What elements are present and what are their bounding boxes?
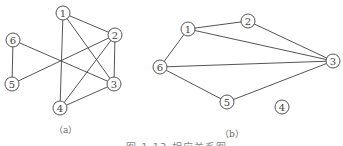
node-3: 3 (326, 54, 340, 68)
node-6: 6 (153, 60, 167, 74)
edge-2-4 (60, 35, 115, 108)
edge-4-3 (60, 84, 114, 108)
svg-text:5: 5 (9, 79, 15, 90)
svg-text:5: 5 (224, 97, 230, 108)
node-4: 4 (275, 100, 289, 114)
graph-a: 123456 (5, 6, 122, 115)
node-5: 5 (5, 77, 19, 91)
edge-2-5 (12, 35, 115, 84)
svg-text:2: 2 (112, 30, 118, 41)
node-2: 2 (241, 14, 255, 28)
edge-1-3 (188, 29, 333, 61)
graph-a-label: （a） (54, 123, 77, 136)
node-6: 6 (6, 33, 20, 47)
node-5: 5 (220, 95, 234, 109)
svg-text:2: 2 (245, 16, 251, 27)
svg-text:3: 3 (111, 79, 117, 90)
edge-6-3 (13, 40, 114, 84)
node-1: 1 (56, 6, 70, 20)
svg-text:4: 4 (279, 102, 285, 113)
edge-1-2 (188, 21, 248, 29)
node-2: 2 (108, 28, 122, 42)
svg-text:1: 1 (60, 8, 66, 19)
graph-diagram: 123456123456 (0, 0, 343, 146)
edge-5-3 (227, 61, 333, 102)
svg-text:6: 6 (10, 35, 16, 46)
graph-b: 123456 (153, 14, 340, 114)
svg-text:6: 6 (157, 62, 163, 73)
node-1: 1 (181, 22, 195, 36)
svg-text:3: 3 (330, 56, 336, 67)
svg-text:4: 4 (57, 103, 63, 114)
figure-caption: 图 1.13 相应关系图 (126, 139, 227, 146)
edge-6-5 (160, 67, 227, 102)
edge-6-3 (160, 61, 333, 67)
edge-2-3 (248, 21, 333, 61)
node-3: 3 (107, 77, 121, 91)
svg-text:1: 1 (185, 24, 191, 35)
node-4: 4 (53, 101, 67, 115)
